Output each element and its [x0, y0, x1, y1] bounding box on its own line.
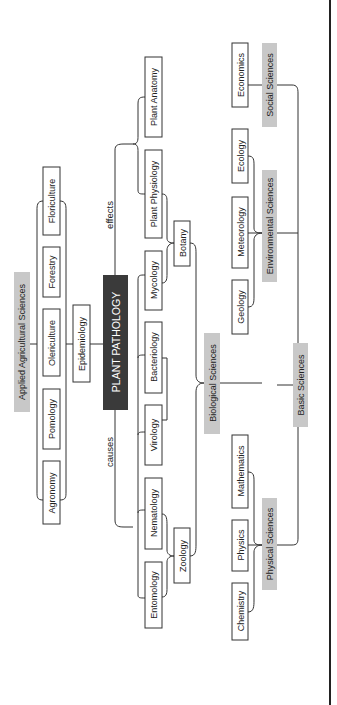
node-epidemiology: Epidemiology: [73, 305, 90, 382]
node-social-sciences: Social Sciences: [262, 43, 277, 127]
agronomy-text: Agronomy: [47, 472, 57, 514]
to-mycology: [138, 275, 145, 280]
connectors: [30, 85, 298, 612]
node-economics: Economics: [232, 43, 248, 107]
mathematics-text: Mathematics: [236, 445, 246, 497]
basic-bus: [277, 85, 298, 545]
plant-pathology-text: PLANT PATHOLOGY: [110, 292, 122, 392]
node-pomology: Pomology: [43, 389, 60, 449]
chemistry-text: Chemistry: [236, 590, 246, 631]
zoology-text: Zoology: [178, 539, 188, 572]
floriculture-text: Floriculture: [47, 179, 57, 224]
chemistry-to-phys: [248, 545, 262, 612]
node-physical-sciences: Physical Sciences: [262, 498, 277, 590]
causes-line: [115, 410, 133, 527]
effects-label: effects: [104, 201, 115, 229]
node-plant-physiology: Plant Physiology: [145, 150, 162, 238]
node-agronomy: Agronomy: [43, 461, 60, 524]
node-virology: Virology: [145, 405, 162, 465]
epidemiology-text: Epidemiology: [77, 316, 87, 371]
ecology-to-env: [248, 156, 262, 233]
node-forestry: Forestry: [43, 247, 60, 297]
node-bacteriology: Bacteriology: [145, 322, 162, 393]
node-botany: Botany: [174, 221, 190, 266]
geology-to-env: [248, 233, 262, 307]
applied-label: Applied Agricultural Sciences: [14, 272, 30, 412]
plant-anatomy-text: Plant Anatomy: [149, 67, 159, 126]
plant-physiology-text: Plant Physiology: [149, 160, 159, 227]
geology-text: Geology: [236, 290, 246, 324]
ecology-text: Ecology: [236, 139, 246, 172]
node-nematology: Nematology: [145, 478, 162, 549]
social-sciences-text: Social Sciences: [265, 53, 275, 117]
forestry-text: Forestry: [47, 255, 57, 289]
node-plant-pathology: PLANT PATHOLOGY: [103, 275, 128, 410]
botany-text: Botany: [178, 228, 188, 257]
micro-bracket: [162, 358, 167, 420]
meteorology-text: Meteorology: [236, 207, 246, 257]
node-zoology: Zoology: [174, 528, 190, 583]
node-basic-sciences: Basic Sciences: [293, 343, 308, 427]
virology-text: Virology: [149, 418, 159, 451]
effects-top: [133, 97, 145, 144]
node-biological-sciences: Biological Sciences: [204, 333, 220, 434]
node-geology: Geology: [232, 280, 248, 334]
science-items: Plant Anatomy Plant Physiology Mycology …: [145, 57, 162, 628]
node-entomology: Entomology: [145, 562, 162, 628]
physical-sciences-text: Physical Sciences: [265, 507, 275, 580]
to-bacteriology: [138, 355, 145, 358]
node-mathematics: Mathematics: [232, 435, 248, 508]
botany-to-bio: [190, 243, 204, 383]
applied-label-text: Applied Agricultural Sciences: [17, 283, 27, 400]
biological-sciences-text: Biological Sciences: [208, 344, 218, 422]
zoology-to-bio: [190, 383, 204, 556]
node-physics: Physics: [232, 520, 248, 571]
applied-bracket-right: [60, 201, 66, 500]
basic-sciences-text: Basic Sciences: [296, 354, 306, 416]
node-mycology: Mycology: [145, 251, 162, 310]
mycology-text: Mycology: [149, 260, 159, 299]
node-plant-anatomy: Plant Anatomy: [145, 57, 162, 137]
effects-line: [115, 144, 133, 275]
to-virology: [138, 432, 145, 435]
node-chemistry: Chemistry: [232, 583, 248, 640]
node-environmental-sciences: Environmental Sciences: [262, 170, 277, 282]
pomology-text: Pomology: [47, 398, 57, 439]
to-nematology: [138, 510, 145, 513]
node-meteorology: Meteorology: [232, 197, 248, 268]
physiology-to-botany: [162, 194, 174, 243]
effects-bottom: [133, 144, 145, 194]
physics-text: Physics: [236, 529, 246, 561]
nematology-text: Nematology: [149, 488, 159, 537]
math-to-phys: [248, 472, 262, 545]
node-floriculture: Floriculture: [43, 167, 60, 235]
node-olericulture: Olericulture: [43, 309, 60, 376]
plant-pathology-diagram: Applied Agricultural Sciences Floricultu…: [0, 0, 337, 705]
node-ecology: Ecology: [232, 129, 248, 183]
applied-items: Floriculture Forestry Olericulture Pomol…: [43, 167, 60, 524]
economics-text: Economics: [236, 52, 246, 97]
olericulture-text: Olericulture: [47, 320, 57, 366]
environmental-sciences-text: Environmental Sciences: [265, 177, 275, 274]
entomology-to-zoology: [162, 556, 174, 597]
to-entomology: [138, 595, 145, 598]
entomology-text: Entomology: [149, 571, 159, 619]
mycology-to-botany: [162, 243, 174, 283]
applied-bracket-left: [37, 201, 43, 500]
bacteriology-text: Bacteriology: [149, 332, 159, 382]
causes-label: causes: [104, 437, 115, 467]
nematology-to-zoology: [162, 514, 174, 556]
basic-items: Economics Ecology Meteorology Geology Ma…: [232, 43, 248, 640]
